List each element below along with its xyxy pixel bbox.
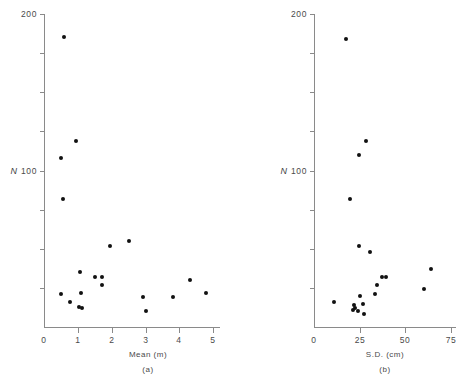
data-point <box>62 35 66 39</box>
y-tick <box>40 171 45 172</box>
y-tick-label: 200 <box>291 9 307 19</box>
x-tick-label: 0 <box>311 335 316 345</box>
data-point <box>144 309 148 313</box>
data-point <box>188 278 192 282</box>
data-point <box>373 292 377 296</box>
x-tick <box>146 328 147 333</box>
y-tick <box>40 210 45 211</box>
x-tick-label: 5 <box>210 335 215 345</box>
y-tick <box>40 131 45 132</box>
panel-a: 100N200012345Mean (m)(a) <box>0 0 232 374</box>
y-tick <box>310 92 315 93</box>
x-axis-title: S.D. (cm) <box>366 350 404 359</box>
x-tick <box>451 328 452 333</box>
data-point <box>141 295 145 299</box>
x-tick-label: 50 <box>400 335 411 345</box>
x-axis-title: Mean (m) <box>129 350 167 359</box>
y-tick <box>310 131 315 132</box>
y-tick <box>310 249 315 250</box>
data-point <box>59 292 63 296</box>
data-point <box>79 291 83 295</box>
data-point <box>358 294 362 298</box>
y-tick <box>310 53 315 54</box>
x-tick-label: 0 <box>41 335 46 345</box>
panel-caption: (b) <box>379 365 390 374</box>
data-point <box>93 275 97 279</box>
data-point <box>357 244 361 248</box>
data-point <box>368 250 372 254</box>
data-point <box>375 283 379 287</box>
data-point <box>59 156 63 160</box>
y-tick-label: 100 <box>21 166 37 176</box>
x-tick-label: 75 <box>446 335 457 345</box>
x-tick-label: 2 <box>109 335 114 345</box>
x-tick <box>405 328 406 333</box>
y-tick <box>40 53 45 54</box>
data-point <box>100 283 104 287</box>
x-tick-label: 3 <box>143 335 148 345</box>
y-tick <box>40 288 45 289</box>
data-point <box>204 291 208 295</box>
y-tick <box>310 288 315 289</box>
data-point <box>100 275 104 279</box>
data-point <box>61 197 65 201</box>
panel-caption: (a) <box>142 365 153 374</box>
y-tick-label: 200 <box>21 9 37 19</box>
data-point <box>422 287 426 291</box>
y-tick-label: 100 <box>291 166 307 176</box>
data-point <box>364 139 368 143</box>
data-point <box>351 308 355 312</box>
y-tick <box>40 92 45 93</box>
x-tick-label: 4 <box>176 335 181 345</box>
y-tick <box>40 249 45 250</box>
data-point <box>356 309 360 313</box>
x-tick <box>360 328 361 333</box>
x-tick-label: 1 <box>75 335 80 345</box>
panel-b: 100N2000255075S.D. (cm)(b) <box>231 0 463 374</box>
data-point <box>361 302 365 306</box>
data-point <box>127 239 131 243</box>
x-tick <box>78 328 79 333</box>
y-axis-title: N <box>11 166 18 176</box>
data-point <box>171 295 175 299</box>
y-tick <box>310 210 315 211</box>
y-axis-title: N <box>281 166 288 176</box>
y-tick <box>310 14 315 15</box>
data-point <box>384 275 388 279</box>
data-point <box>332 300 336 304</box>
data-point <box>74 139 78 143</box>
y-tick <box>40 14 45 15</box>
data-point <box>429 267 433 271</box>
x-axis <box>44 327 220 328</box>
data-point <box>68 300 72 304</box>
x-tick-label: 25 <box>355 335 366 345</box>
x-tick <box>179 328 180 333</box>
data-point <box>357 153 361 157</box>
data-point <box>108 244 112 248</box>
y-tick <box>310 171 315 172</box>
x-tick <box>112 328 113 333</box>
data-point <box>80 306 84 310</box>
data-point <box>348 197 352 201</box>
x-tick <box>213 328 214 333</box>
data-point <box>362 312 366 316</box>
x-axis <box>314 327 456 328</box>
data-point <box>344 37 348 41</box>
scatter-figure: 100N200012345Mean (m)(a) 100N2000255075S… <box>0 0 463 374</box>
data-point <box>78 270 82 274</box>
